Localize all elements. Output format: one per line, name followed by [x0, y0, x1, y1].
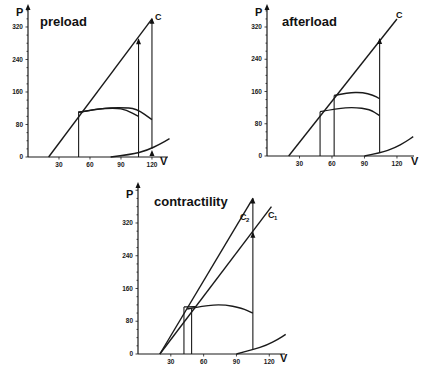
- y-tick-label: 0: [19, 153, 23, 160]
- ejection-curve: [187, 305, 253, 313]
- ejection-curve-high-afterload: [334, 92, 379, 98]
- x-tick-label: 120: [392, 160, 403, 167]
- c1-subscript: 1: [274, 215, 278, 221]
- y-tick-label: 0: [129, 350, 133, 357]
- afterload-x-label: V: [411, 155, 419, 167]
- contractility-x-label: V: [280, 352, 288, 364]
- x-tick-label: 60: [200, 358, 208, 365]
- preload-y-label: P: [16, 6, 23, 18]
- y-tick-label: 160: [122, 285, 133, 292]
- afterload-y-label: P: [255, 6, 262, 18]
- c2-subscript: 2: [246, 217, 250, 223]
- y-tick-label: 0: [258, 152, 262, 159]
- x-tick-label: 90: [233, 358, 241, 365]
- y-axis-arrow-icon: [265, 4, 270, 10]
- preload-c-label: C: [155, 12, 162, 22]
- afterload-c-label: C: [396, 10, 403, 20]
- afterload-title: afterload: [282, 14, 337, 29]
- contractility-title: contractility: [154, 194, 228, 209]
- ejection-curve-1: [79, 108, 139, 116]
- y-axis-arrow-icon: [26, 4, 31, 10]
- x-tick-label: 30: [296, 160, 304, 167]
- y-tick-label: 320: [251, 23, 262, 30]
- contractility-y-label: P: [126, 188, 133, 200]
- y-tick-label: 320: [122, 219, 133, 226]
- end-diastolic-curve: [364, 137, 413, 156]
- y-tick-label: 80: [16, 121, 24, 128]
- x-tick-label: 90: [361, 160, 369, 167]
- c1-baseline-contractility: [160, 207, 272, 354]
- preload-title: preload: [40, 14, 87, 29]
- y-axis-arrow-icon: [136, 182, 141, 188]
- x-tick-label: 120: [264, 358, 275, 365]
- x-tick-label: 30: [55, 161, 63, 168]
- y-tick-label: 240: [122, 252, 133, 259]
- x-tick-label: 30: [167, 358, 175, 365]
- y-tick-label: 320: [12, 23, 23, 30]
- c-end-systolic-line: [289, 19, 397, 156]
- x-tick-label: 60: [328, 160, 336, 167]
- ejection-curve-low-afterload: [320, 108, 380, 116]
- c2-higher-contractility: [160, 198, 253, 354]
- preload-panel: 080160240320306090120: [12, 4, 169, 168]
- y-tick-label: 240: [251, 55, 262, 62]
- figure-canvas: 080160240320306090120 080160240320306090…: [0, 0, 424, 370]
- x-tick-label: 90: [117, 161, 125, 168]
- y-tick-label: 80: [126, 317, 134, 324]
- y-tick-label: 160: [251, 88, 262, 95]
- y-tick-label: 240: [12, 56, 23, 63]
- y-tick-label: 160: [12, 88, 23, 95]
- y-tick-label: 80: [255, 120, 263, 127]
- c-end-systolic-line: [49, 19, 152, 157]
- preload-x-label: V: [160, 155, 168, 167]
- x-tick-label: 60: [86, 161, 94, 168]
- end-diastolic-curve: [236, 334, 285, 354]
- x-tick-label: 120: [147, 161, 158, 168]
- arrowhead-icon: [149, 150, 154, 156]
- contractility-panel: 080160240320306090120: [122, 182, 286, 365]
- ejection-curve-2: [79, 108, 152, 120]
